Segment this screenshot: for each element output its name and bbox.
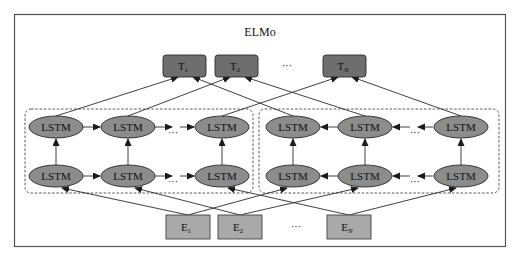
lstm-label: LSTM <box>113 170 143 182</box>
input-embedding-E2: E2 <box>218 215 262 239</box>
lstm-cell: LSTM <box>434 116 488 138</box>
lstm-cell: LSTM <box>195 165 249 187</box>
lstm-label: LSTM <box>207 170 237 182</box>
lstm-cell: LSTM <box>29 165 83 187</box>
outer-frame <box>15 15 506 247</box>
lstm-label: LSTM <box>41 121 71 133</box>
lstm-cell: LSTM <box>338 165 392 187</box>
lstm-cell: LSTM <box>434 165 488 187</box>
lstm-label: LSTM <box>41 170 71 182</box>
forward-lstm-layer-1: LSTM LSTM LSTM <box>29 165 249 187</box>
lstm-label: LSTM <box>446 121 476 133</box>
forward-ellipsis-bottom: ··· <box>168 176 178 187</box>
lstm-label: LSTM <box>446 170 476 182</box>
lstm-label: LSTM <box>207 121 237 133</box>
lstm-label: LSTM <box>350 170 380 182</box>
lstm-cell: LSTM <box>266 165 320 187</box>
lstm-cell: LSTM <box>338 116 392 138</box>
output-token-T2: T2 <box>215 55 258 77</box>
lstm-cell: LSTM <box>266 116 320 138</box>
lstm-label: LSTM <box>278 170 308 182</box>
input-embedding-E1: E1 <box>166 215 210 239</box>
lstm-cell: LSTM <box>29 116 83 138</box>
lstm-cell: LSTM <box>101 116 155 138</box>
backward-ellipsis-bottom: ··· <box>410 176 420 187</box>
backward-ellipsis-top: ··· <box>410 127 420 138</box>
lstm-label: LSTM <box>113 121 143 133</box>
inputs-ellipsis: ··· <box>291 221 301 232</box>
backward-lstm-layer-1: LSTM LSTM LSTM <box>266 165 488 187</box>
lstm-label: LSTM <box>350 121 380 133</box>
forward-lstm-layer-2: LSTM LSTM LSTM <box>29 116 249 138</box>
elmo-architecture-diagram: ELMo <box>0 0 518 262</box>
output-token-TN: TN <box>323 55 366 77</box>
backward-lstm-layer-2: LSTM LSTM LSTM <box>266 116 488 138</box>
lstm-cell: LSTM <box>101 165 155 187</box>
output-token-T1: T1 <box>163 55 206 77</box>
lstm-label: LSTM <box>278 121 308 133</box>
diagram-title: ELMo <box>244 25 275 39</box>
input-embedding-EN: EN <box>327 215 371 239</box>
forward-ellipsis-top: ··· <box>168 127 178 138</box>
outputs-ellipsis: ··· <box>282 60 292 71</box>
lstm-cell: LSTM <box>195 116 249 138</box>
